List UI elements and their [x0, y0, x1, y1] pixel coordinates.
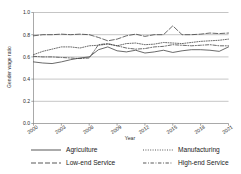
x-axis-title: Year: [125, 135, 136, 141]
y-tick-label-0.4: 0.4: [23, 76, 30, 82]
y-tick-label-0.8: 0.8: [23, 32, 30, 38]
chart-figure: 0.00.20.40.60.81.0 200020032006200920122…: [0, 0, 241, 174]
y-tick-label-0.0: 0.0: [23, 120, 30, 126]
y-axis-title: Gender wage ratio: [6, 46, 12, 88]
legend-label-manufacturing: Manufacturing: [178, 146, 220, 154]
y-tick-label-0.2: 0.2: [23, 98, 30, 104]
chart-canvas: 0.00.20.40.60.81.0 200020032006200920122…: [0, 0, 241, 174]
legend-label-low-end-service: Low-end Service: [66, 159, 115, 166]
y-tick-label-0.6: 0.6: [23, 54, 30, 60]
y-tick-label-1.0: 1.0: [23, 9, 30, 15]
legend-label-agriculture: Agriculture: [66, 146, 98, 154]
legend-label-high-end-service: High-end Service: [178, 159, 229, 167]
